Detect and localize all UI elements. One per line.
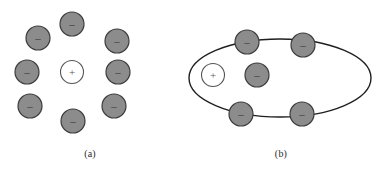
negative-charge: –: [245, 63, 269, 87]
negative-charge: –: [105, 29, 129, 53]
negative-charge: –: [15, 60, 39, 84]
minus-icon: –: [26, 100, 33, 112]
panel-a: – – – – –: [0, 0, 180, 177]
negative-charge: –: [18, 94, 42, 118]
negative-charge: –: [291, 33, 315, 57]
negative-charge: –: [290, 102, 314, 126]
minus-icon: –: [253, 69, 260, 81]
panel-b-drawing: – – – – –: [180, 0, 382, 145]
minus-icon: –: [113, 35, 120, 47]
panel-b-caption: (b): [180, 148, 382, 159]
negative-charge: –: [229, 102, 253, 126]
minus-icon: –: [298, 108, 305, 120]
minus-icon: –: [69, 115, 76, 127]
minus-icon: –: [68, 18, 75, 30]
minus-icon: –: [299, 39, 306, 51]
panel-b-positive-charge: +: [202, 64, 225, 87]
minus-icon: –: [243, 36, 250, 48]
minus-icon: –: [34, 32, 41, 44]
negative-charge: –: [60, 12, 84, 36]
plus-icon: +: [69, 66, 75, 78]
minus-icon: –: [237, 108, 244, 120]
panel-b-negative-charges: – – – – –: [229, 30, 315, 126]
plus-icon: +: [210, 69, 216, 81]
negative-charge: –: [61, 109, 85, 133]
negative-charge: –: [106, 60, 130, 84]
panel-a-drawing: – – – – –: [0, 0, 180, 145]
panel-a-caption: (a): [0, 148, 180, 159]
negative-charge: –: [26, 26, 50, 50]
panel-b: – – – – –: [180, 0, 382, 177]
panel-a-positive-charge: +: [61, 61, 84, 84]
minus-icon: –: [114, 66, 121, 78]
minus-icon: –: [23, 66, 30, 78]
negative-charge: –: [102, 94, 126, 118]
figure-container: – – – – –: [0, 0, 382, 177]
negative-charge: –: [235, 30, 259, 54]
minus-icon: –: [110, 100, 117, 112]
